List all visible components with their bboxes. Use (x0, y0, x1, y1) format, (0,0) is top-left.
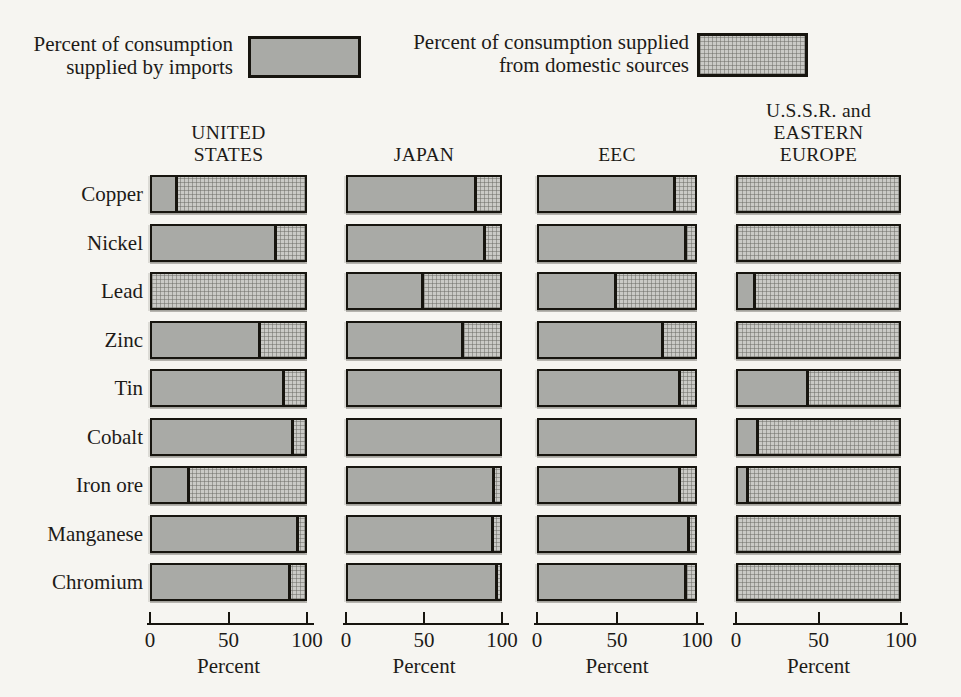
x-axis-tick-0-u-s-s-r-and-eastern-europe (735, 612, 737, 623)
bar-united-states-tin (150, 369, 307, 407)
imports-segment-united-states-chromium (150, 563, 291, 601)
bar-u-s-s-r-and-eastern-europe-cobalt (736, 418, 901, 456)
bar-japan-iron-ore (346, 466, 502, 504)
column-header-u-s-s-r-and-eastern-europe: U.S.S.R. and EASTERN EUROPE (766, 100, 871, 166)
bar-japan-nickel (346, 224, 502, 262)
row-label-iron-ore: Iron ore (3, 473, 143, 497)
bar-eec-nickel (537, 224, 697, 262)
x-axis-eec (534, 623, 704, 625)
row-label-tin: Tin (3, 376, 143, 400)
imports-segment-eec-tin (537, 369, 681, 407)
imports-segment-japan-nickel (346, 224, 486, 262)
row-label-manganese: Manganese (3, 522, 143, 546)
row-label-cobalt: Cobalt (3, 425, 143, 449)
bar-japan-cobalt (346, 418, 502, 456)
bar-united-states-nickel (150, 224, 307, 262)
legend-imports-swatch (248, 36, 361, 78)
row-label-chromium: Chromium (3, 570, 143, 594)
imports-segment-eec-zinc (537, 321, 664, 359)
x-axis-tick-label-100-japan: 100 (486, 629, 518, 651)
x-axis-u-s-s-r-and-eastern-europe (733, 623, 908, 625)
bar-japan-manganese (346, 515, 502, 553)
x-axis-tick-label-100-united-states: 100 (291, 629, 323, 651)
x-axis-tick-100-u-s-s-r-and-eastern-europe (900, 612, 902, 623)
bar-united-states-copper (150, 175, 307, 213)
legend-domestic-swatch (697, 33, 808, 77)
bar-japan-lead (346, 272, 502, 310)
x-axis-tick-100-eec (696, 612, 698, 623)
imports-segment-eec-copper (537, 175, 676, 213)
x-axis-tick-label-50-eec: 50 (607, 629, 628, 651)
x-axis-tick-label-100-u-s-s-r-and-eastern-europe: 100 (885, 629, 917, 651)
imports-segment-eec-manganese (537, 515, 690, 553)
x-axis-tick-50-u-s-s-r-and-eastern-europe (818, 612, 820, 623)
imports-segment-united-states-manganese (150, 515, 299, 553)
row-label-lead: Lead (3, 279, 143, 303)
x-axis-tick-50-eec (616, 612, 618, 623)
bar-eec-lead (537, 272, 697, 310)
bar-u-s-s-r-and-eastern-europe-lead (736, 272, 901, 310)
bar-eec-iron-ore (537, 466, 697, 504)
imports-segment-u-s-s-r-and-eastern-europe-cobalt (736, 418, 759, 456)
bar-japan-copper (346, 175, 502, 213)
x-axis-tick-label-0-united-states: 0 (145, 629, 156, 651)
x-axis-tick-50-united-states (228, 612, 230, 623)
bar-u-s-s-r-and-eastern-europe-tin (736, 369, 901, 407)
imports-segment-united-states-copper (150, 175, 178, 213)
imports-segment-u-s-s-r-and-eastern-europe-iron-ore (736, 466, 749, 504)
bar-united-states-lead (150, 272, 307, 310)
bar-eec-cobalt (537, 418, 697, 456)
bar-u-s-s-r-and-eastern-europe-manganese (736, 515, 901, 553)
imports-segment-united-states-cobalt (150, 418, 294, 456)
imports-segment-eec-iron-ore (537, 466, 681, 504)
x-axis-tick-label-50-u-s-s-r-and-eastern-europe: 50 (808, 629, 829, 651)
x-axis-tick-0-japan (345, 612, 347, 623)
legend-domestic-label: Percent of consumption supplied from dom… (413, 31, 689, 77)
x-axis-tick-0-eec (536, 612, 538, 623)
imports-segment-japan-lead (346, 272, 424, 310)
bar-japan-tin (346, 369, 502, 407)
bar-u-s-s-r-and-eastern-europe-nickel (736, 224, 901, 262)
row-label-zinc: Zinc (3, 328, 143, 352)
imports-segment-japan-manganese (346, 515, 494, 553)
bar-united-states-zinc (150, 321, 307, 359)
imports-segment-united-states-zinc (150, 321, 261, 359)
bar-eec-tin (537, 369, 697, 407)
imports-segment-japan-copper (346, 175, 477, 213)
bar-eec-copper (537, 175, 697, 213)
imports-segment-united-states-nickel (150, 224, 277, 262)
bar-united-states-cobalt (150, 418, 307, 456)
legend-imports-label: Percent of consumption supplied by impor… (34, 33, 233, 79)
imports-segment-eec-nickel (537, 224, 687, 262)
bar-japan-zinc (346, 321, 502, 359)
imports-segment-united-states-iron-ore (150, 466, 190, 504)
x-axis-tick-0-united-states (149, 612, 151, 623)
bar-u-s-s-r-and-eastern-europe-chromium (736, 563, 901, 601)
x-axis-tick-50-japan (423, 612, 425, 623)
row-label-copper: Copper (3, 182, 143, 206)
imports-segment-japan-iron-ore (346, 466, 495, 504)
x-axis-tick-label-50-japan: 50 (414, 629, 435, 651)
bar-u-s-s-r-and-eastern-europe-copper (736, 175, 901, 213)
x-axis-tick-label-0-u-s-s-r-and-eastern-europe: 0 (731, 629, 742, 651)
x-axis-tick-100-japan (501, 612, 503, 623)
imports-segment-eec-lead (537, 272, 617, 310)
x-axis-title-u-s-s-r-and-eastern-europe: Percent (787, 655, 850, 677)
imports-segment-japan-zinc (346, 321, 464, 359)
bar-eec-manganese (537, 515, 697, 553)
bar-u-s-s-r-and-eastern-europe-zinc (736, 321, 901, 359)
x-axis-tick-label-100-eec: 100 (681, 629, 713, 651)
x-axis-japan (343, 623, 509, 625)
bar-u-s-s-r-and-eastern-europe-iron-ore (736, 466, 901, 504)
bar-eec-zinc (537, 321, 697, 359)
imports-segment-u-s-s-r-and-eastern-europe-lead (736, 272, 756, 310)
column-header-japan: JAPAN (394, 144, 454, 166)
bar-united-states-manganese (150, 515, 307, 553)
bar-united-states-iron-ore (150, 466, 307, 504)
imports-segment-japan-chromium (346, 563, 498, 601)
x-axis-title-eec: Percent (586, 655, 649, 677)
imports-segment-eec-chromium (537, 563, 687, 601)
bar-united-states-chromium (150, 563, 307, 601)
x-axis-title-united-states: Percent (197, 655, 260, 677)
x-axis-title-japan: Percent (393, 655, 456, 677)
